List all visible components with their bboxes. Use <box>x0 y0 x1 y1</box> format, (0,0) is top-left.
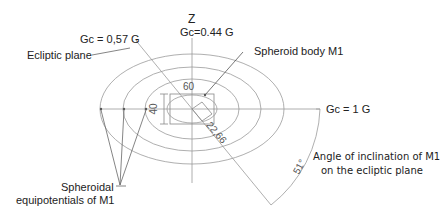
leader-ecliptic <box>92 48 130 55</box>
z-axis-label: Z <box>188 13 195 25</box>
spheroid-body-label: Spheroid body M1 <box>254 46 343 57</box>
equipotentials-label-line2: equipotentials of M1 <box>16 195 114 206</box>
angle-label-line1: Angle of inclination of M1 <box>313 152 440 162</box>
spheroid-body-shape <box>192 102 212 121</box>
ecliptic-plane-label: Ecliptic plane <box>27 50 92 61</box>
gc-top-label: Gc=0.44 G <box>180 27 234 38</box>
dimension-width: 60 <box>183 82 194 92</box>
gc-right-label: Gc = 1 G <box>326 104 370 115</box>
gc-left-label: Gc = 0,57 G <box>80 34 140 45</box>
equipotentials-label-line1: Spheroidal <box>61 182 114 193</box>
leader-equip-1 <box>101 110 120 185</box>
dimension-height: 40 <box>149 103 159 114</box>
leader-equip-3 <box>120 110 146 185</box>
angle-label-line2: on the ecliptic plane <box>321 166 423 176</box>
leader-spheroid <box>205 52 243 95</box>
leader-equip-2 <box>120 110 124 185</box>
